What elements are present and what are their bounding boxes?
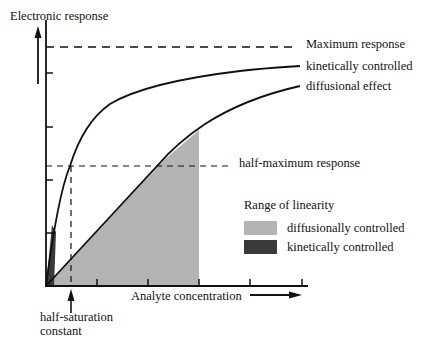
- x-direction-arrow-icon: [250, 292, 302, 299]
- half-saturation-label-line2: constant: [40, 324, 82, 338]
- diffusional-linear-region: [46, 130, 199, 286]
- legend: Range of linearity diffusionally control…: [244, 198, 405, 254]
- maximum-response-label: Maximum response: [306, 37, 405, 51]
- half-saturation-label-line1: half-saturation: [40, 310, 114, 324]
- legend-swatch-diffusional: [244, 221, 277, 235]
- half-maximum-label: half-maximum response: [239, 156, 361, 170]
- legend-title: Range of linearity: [244, 198, 335, 212]
- kinetic-curve-label: kinetically controlled: [306, 59, 413, 73]
- diffusional-curve-label: diffusional effect: [306, 79, 392, 93]
- x-axis-label: Analyte concentration: [131, 289, 242, 303]
- legend-swatch-kinetic: [244, 240, 277, 254]
- legend-label-diffusional: diffusionally controlled: [287, 221, 405, 235]
- saturation-response-diagram: Electronic response Analyte concentratio…: [0, 0, 436, 349]
- y-direction-arrow-icon: [35, 26, 42, 84]
- legend-label-kinetic: kinetically controlled: [287, 240, 394, 254]
- y-axis-label: Electronic response: [10, 9, 109, 23]
